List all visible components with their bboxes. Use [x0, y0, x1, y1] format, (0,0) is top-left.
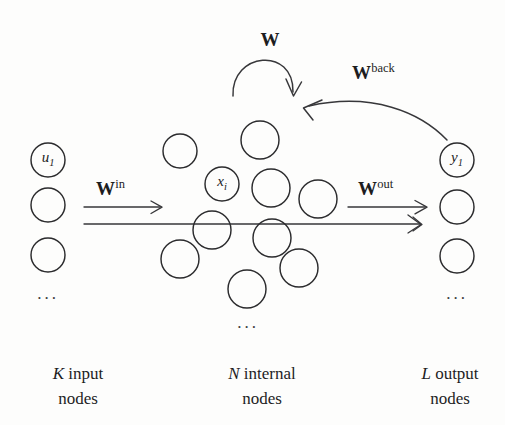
- internal-node: [193, 211, 231, 249]
- ellipsis-internal: ...: [237, 314, 259, 331]
- caption-input-nodes: K inputnodes: [53, 362, 104, 411]
- esn-diagram: W Win Wout Wback u1 xi y1 ... ... ... K …: [0, 0, 505, 425]
- caption-line-1-text: output: [431, 364, 479, 383]
- weight-base: W: [352, 62, 371, 83]
- internal-node: [299, 180, 337, 218]
- weight-base: W: [96, 178, 115, 199]
- caption-internal-nodes: N internalnodes: [228, 362, 296, 411]
- caption-line-1-text: internal: [240, 364, 296, 383]
- node-label-base: u: [42, 149, 50, 165]
- caption-line-2: nodes: [228, 387, 296, 412]
- output-node: [440, 239, 474, 273]
- caption-line-1: L output: [421, 362, 478, 387]
- caption-emphasis: K: [53, 364, 64, 383]
- weight-base: W: [358, 178, 377, 199]
- node-label-y1: y1: [451, 150, 463, 169]
- caption-output-nodes: L outputnodes: [421, 362, 478, 411]
- node-label-xi: xi: [217, 174, 227, 193]
- ellipsis-input: ...: [37, 285, 59, 302]
- internal-node: [252, 169, 290, 207]
- caption-line-2: nodes: [421, 387, 478, 412]
- caption-line-2: nodes: [53, 387, 104, 412]
- caption-line-1: N internal: [228, 362, 296, 387]
- w-back-arrow: [304, 100, 448, 140]
- caption-emphasis: N: [228, 364, 239, 383]
- w-in-arrow: [84, 201, 162, 214]
- internal-node: [241, 121, 279, 159]
- internal-node: [228, 270, 266, 308]
- node-label-u1: u1: [42, 150, 55, 169]
- signal-through-line: [84, 215, 422, 233]
- caption-line-1: K input: [53, 362, 104, 387]
- ellipsis-output: ...: [446, 285, 468, 302]
- weight-superscript: back: [371, 61, 395, 75]
- weight-superscript: out: [377, 177, 393, 191]
- weight-base: W: [260, 29, 279, 50]
- input-node: [31, 238, 65, 272]
- internal-node: [280, 249, 318, 287]
- weight-superscript: in: [115, 177, 125, 191]
- weight-label-w: W: [260, 30, 279, 49]
- node-label-subscript: 1: [458, 157, 463, 168]
- node-label-base: y: [451, 149, 458, 165]
- node-label-subscript: i: [224, 181, 227, 192]
- output-node: [440, 190, 474, 224]
- internal-node: [161, 240, 199, 278]
- weight-label-w-in: Win: [96, 178, 125, 198]
- input-node: [31, 188, 65, 222]
- weight-label-w-out: Wout: [358, 178, 393, 198]
- node-label-subscript: 1: [49, 157, 54, 168]
- node-label-base: x: [217, 173, 224, 189]
- internal-node-circles: [161, 121, 337, 308]
- w-recurrent-loop: [233, 60, 302, 96]
- internal-node: [253, 219, 291, 257]
- internal-node: [163, 134, 197, 168]
- caption-line-1-text: input: [64, 364, 103, 383]
- weight-label-w-back: Wback: [352, 62, 395, 82]
- w-out-arrow: [348, 201, 427, 214]
